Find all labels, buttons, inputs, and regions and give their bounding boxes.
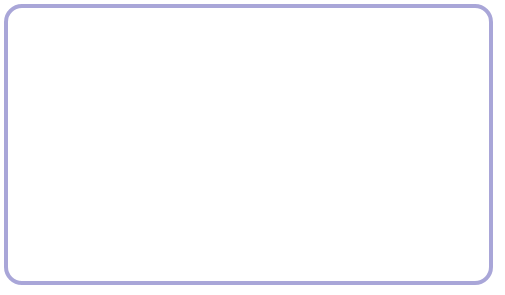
chart-container: 2468101214161820197919851990199520002005… [0, 0, 505, 295]
figure-border-frame [4, 4, 493, 285]
